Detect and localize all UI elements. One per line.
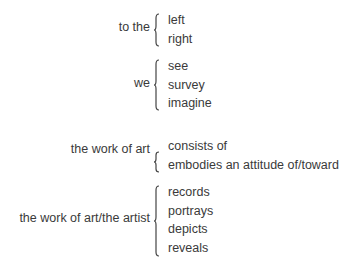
curly-brace-icon (153, 185, 159, 257)
option-imagine: imagine (168, 94, 212, 113)
option-list: left right (168, 11, 192, 48)
option-survey: survey (168, 76, 212, 95)
option-records: records (168, 183, 213, 202)
option-list: records portrays depicts reveals (168, 183, 213, 257)
option-list: see survey imagine (168, 57, 212, 113)
curly-brace-icon (153, 13, 159, 47)
option-right: right (168, 30, 192, 49)
curly-brace-icon (153, 151, 159, 173)
group-label: to the (119, 20, 150, 34)
group-label: the work of art (71, 142, 150, 156)
option-consists-of: consists of (168, 137, 339, 156)
option-embodies: embodies an attitude of/toward (168, 156, 339, 175)
option-list: consists of embodies an attitude of/towa… (168, 137, 339, 174)
group-label: the work of art/the artist (19, 211, 150, 225)
option-left: left (168, 11, 192, 30)
option-reveals: reveals (168, 239, 213, 258)
option-see: see (168, 57, 212, 76)
curly-brace-icon (153, 59, 159, 111)
option-depicts: depicts (168, 220, 213, 239)
group-label: we (134, 76, 150, 90)
option-portrays: portrays (168, 202, 213, 221)
